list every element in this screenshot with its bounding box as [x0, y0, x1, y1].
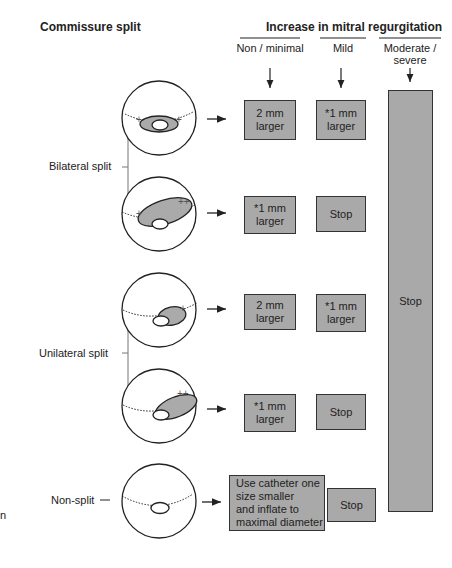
box-row4-nonminimal: *1 mm larger	[244, 394, 296, 432]
group-label-unilateral: Unilateral split	[39, 347, 108, 359]
title-commissure-split: Commissure split	[40, 20, 141, 34]
group-label-nonsplit: Non-split	[51, 494, 94, 506]
title-mitral-regurgitation: Increase in mitral regurgitation	[266, 20, 442, 34]
svg-text:+: +	[136, 208, 142, 219]
svg-text:+: +	[136, 114, 142, 125]
group-label-bilateral: Bilateral split	[49, 160, 111, 172]
box-severe-stop: Stop	[388, 90, 433, 512]
box-row2-mild: Stop	[316, 196, 366, 232]
box-row3-mild: *1 mm larger	[316, 294, 366, 332]
svg-text:++: ++	[177, 388, 189, 399]
diagram-graphics: + + + ++ + ++	[0, 0, 452, 568]
box-row3-nonminimal: 2 mm larger	[244, 294, 296, 330]
box-row2-nonminimal: *1 mm larger	[244, 196, 296, 234]
box-row5-nonminimal: Use catheter one size smaller and inflat…	[229, 475, 325, 531]
box-row1-mild: *1 mm larger	[316, 100, 366, 140]
box-row5-mild: Stop	[327, 488, 376, 522]
column-header-mild: Mild	[320, 42, 366, 54]
svg-text:+: +	[180, 303, 186, 314]
column-header-nonminimal: Non / minimal	[236, 42, 304, 54]
valve-bilateral-1: + +	[122, 81, 196, 155]
column-header-severe: Moderate / severe	[378, 42, 442, 66]
svg-text:++: ++	[178, 196, 190, 207]
box-row4-mild: Stop	[316, 394, 366, 430]
box-row1-nonminimal: 2 mm larger	[244, 100, 296, 140]
stray-text: n	[0, 509, 6, 521]
svg-text:+: +	[176, 114, 182, 125]
